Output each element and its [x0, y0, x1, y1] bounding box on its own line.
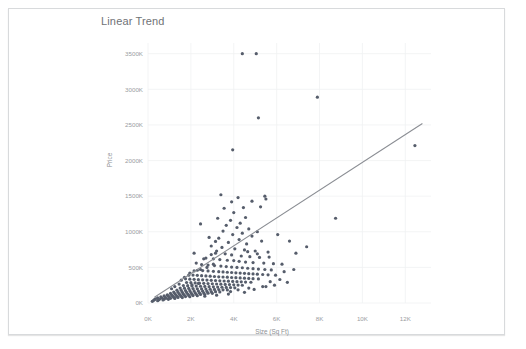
scatter-point [255, 52, 258, 55]
y-axis-title: Price [106, 152, 113, 167]
y-axis-tick-label: 2500K [125, 121, 144, 128]
scatter-point [206, 292, 209, 295]
scatter-point [250, 200, 253, 203]
scatter-point [247, 272, 250, 275]
scatter-point [208, 236, 211, 239]
scatter-point [231, 280, 234, 283]
y-axis-tick-label: 1000K [125, 228, 144, 235]
scatter-point [305, 245, 308, 248]
scatter-point [270, 268, 273, 271]
scatter-point [316, 96, 319, 99]
scatter-point [221, 229, 224, 232]
scatter-point [210, 244, 213, 247]
scatter-point [261, 285, 264, 288]
scatter-point [238, 260, 241, 263]
scatter-point [227, 241, 230, 244]
scatter-point [170, 287, 173, 290]
scatter-point [288, 239, 291, 242]
scatter-point [232, 211, 235, 214]
scatter-point [257, 116, 260, 119]
scatter-point [231, 233, 234, 236]
scatter-point [245, 242, 248, 245]
scatter-point [215, 282, 218, 285]
scatter-point [233, 286, 236, 289]
scatter-point [184, 295, 187, 298]
scatter-point [230, 253, 233, 256]
scatter-point [181, 296, 184, 299]
scatter-point [194, 281, 197, 284]
scatter-point [262, 262, 265, 265]
x-axis-tick-label: 2K [187, 315, 195, 322]
scatter-point [230, 271, 233, 274]
scatter-point [249, 281, 252, 284]
scatter-point [230, 200, 233, 203]
scatter-point [239, 222, 242, 225]
scatter-point [258, 256, 261, 259]
scatter-point [241, 52, 244, 55]
scatter-point [278, 278, 281, 281]
scatter-point [196, 274, 199, 277]
scatter-point [226, 276, 229, 279]
scatter-point [238, 238, 241, 241]
scatter-point [236, 283, 239, 286]
scatter-point [273, 284, 276, 287]
scatter-point [256, 252, 259, 255]
scatter-point [213, 275, 216, 278]
scatter-point [224, 283, 227, 286]
scatter-point [226, 288, 229, 291]
scatter-point [246, 267, 249, 270]
scatter-point [205, 266, 208, 269]
scatter-point [269, 280, 272, 283]
scatter-point [251, 277, 254, 280]
scatter-point [177, 283, 180, 286]
x-axis-tick-label: 0K [144, 315, 152, 322]
scatter-point [251, 272, 254, 275]
scatter-point [235, 280, 238, 283]
scatter-point [244, 260, 247, 263]
y-axis-tick-label: 2000K [125, 157, 144, 164]
scatter-point [196, 294, 199, 297]
scatter-point [204, 274, 207, 277]
scatter-point [209, 275, 212, 278]
scatter-point [212, 263, 215, 266]
scatter-point [215, 294, 218, 297]
scatter-point [263, 268, 266, 271]
scatter-point [243, 248, 246, 251]
scatter-point [221, 288, 224, 291]
scatter-point [247, 277, 250, 280]
scatter-point [185, 281, 188, 284]
scatter-point [230, 276, 233, 279]
scatter-point [236, 288, 239, 291]
scatter-point [192, 278, 195, 281]
horizontal-gridlines [148, 54, 431, 303]
scatter-point [218, 279, 221, 282]
scatter-point [229, 290, 232, 293]
x-axis-tick-label: 4K [230, 315, 238, 322]
y-axis-tick-label: 3500K [125, 50, 144, 57]
scatter-point [223, 279, 226, 282]
scatter-point [229, 219, 232, 222]
scatter-point [210, 253, 213, 256]
scatter-point [236, 196, 239, 199]
scatter-point [234, 276, 237, 279]
scatter-point [225, 224, 228, 227]
scatter-point [234, 271, 237, 274]
scatter-point [263, 195, 266, 198]
scatter-point [191, 273, 194, 276]
scatter-point [233, 247, 236, 250]
scatter-point [201, 278, 204, 281]
scatter-point [203, 295, 206, 298]
scatter-point [221, 275, 224, 278]
scatter-point [195, 262, 198, 265]
scatter-point [251, 261, 254, 264]
y-axis-tick-label: 500K [129, 264, 144, 271]
x-axis-tick-label: 6K [273, 315, 281, 322]
scatter-point [161, 298, 164, 301]
x-axis-tick-labels: 0K2K4K6K8K10K12K [144, 315, 411, 322]
scatter-point [197, 282, 200, 285]
scatter-point [226, 259, 229, 262]
scatter-point [232, 259, 235, 262]
trend-line [154, 123, 422, 297]
scatter-point [206, 282, 209, 285]
scatter-point [235, 266, 238, 269]
